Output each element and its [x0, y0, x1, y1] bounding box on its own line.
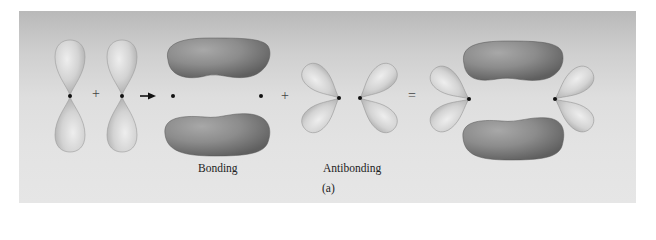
nucleus-icon	[358, 96, 362, 100]
nucleus-icon	[120, 94, 124, 98]
nucleus-icon	[171, 94, 175, 98]
combined-orbital	[425, 41, 598, 160]
antibonding-label: Antibonding	[323, 162, 381, 174]
p-orbital-1	[55, 40, 85, 152]
nucleus-icon	[553, 97, 557, 101]
p-orbital-2	[107, 40, 137, 152]
nucleus-icon	[467, 97, 471, 101]
bonding-label: Bonding	[198, 162, 238, 174]
antibonding-pi-orbital	[297, 58, 402, 137]
plus-operator-1: +	[92, 86, 100, 102]
equals-operator: =	[408, 88, 416, 104]
plus-operator-2: +	[281, 88, 289, 104]
bonding-pi-orbital	[165, 38, 270, 156]
nucleus-icon	[259, 94, 263, 98]
nucleus-icon	[68, 94, 72, 98]
panel-label: (a)	[322, 182, 335, 194]
nucleus-icon	[337, 96, 341, 100]
arrow-icon	[140, 93, 156, 100]
